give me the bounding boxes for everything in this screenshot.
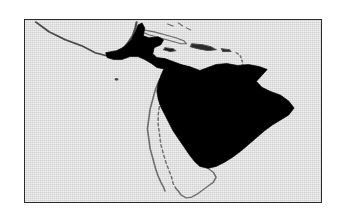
hispaniola-island-path — [190, 44, 216, 51]
map-frame — [24, 19, 322, 203]
galapagos-island-dot — [115, 78, 118, 81]
latin-america-map[interactable] — [25, 20, 321, 202]
highlight-south-america-region[interactable] — [157, 64, 294, 169]
puerto-rico-island-path — [221, 49, 230, 52]
argentina-coastline-path — [176, 168, 216, 198]
jamaica-island-path — [164, 48, 176, 52]
bahamas-islands-path — [168, 23, 191, 30]
figure-root: Latin America Latin America and the Cari… — [0, 0, 350, 222]
